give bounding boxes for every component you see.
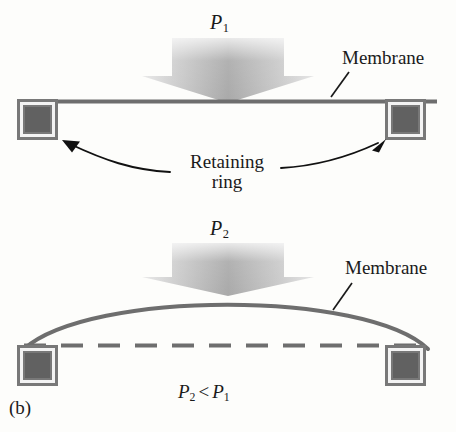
- pressure-symbol-p1: P: [210, 11, 222, 33]
- membrane-bowed-arc: [24, 305, 428, 349]
- inequality-operator: <: [199, 381, 210, 402]
- membrane-leader-line-bottom: [333, 283, 352, 310]
- retaining-ring-bottom-left: [17, 345, 58, 386]
- pressure-label-p2: P2: [210, 218, 229, 241]
- inequality-left-subscript: 2: [190, 391, 196, 404]
- pressure-arrow-p1-icon: [142, 38, 314, 103]
- membrane-leader-line-top: [331, 72, 349, 97]
- arrow-highlight: [142, 38, 314, 103]
- retaining-ring-label-line1: Retaining: [168, 152, 286, 172]
- retaining-ring-arrow-left: [62, 140, 170, 172]
- pressure-subscript-1: 1: [223, 21, 229, 35]
- inequality-right-subscript: 1: [224, 391, 230, 404]
- retaining-ring-arrow-right: [281, 139, 386, 168]
- retaining-ring-bottom-right: [385, 345, 426, 386]
- pressure-subscript-2: 2: [223, 227, 229, 241]
- pressure-membrane-figure: P1 Membrane Retaining ring P2 Membrane P…: [0, 0, 456, 432]
- arrow-highlight: [142, 243, 314, 296]
- panel-label: (b): [9, 398, 31, 418]
- retaining-ring-label: Retaining ring: [168, 152, 286, 192]
- ring-core: [25, 107, 50, 132]
- ring-core: [393, 353, 418, 378]
- retaining-ring-top-right: [385, 99, 426, 140]
- membrane-label-top: Membrane: [342, 48, 424, 68]
- ring-core: [25, 353, 50, 378]
- arrow-head: [62, 140, 80, 153]
- ring-core: [393, 107, 418, 132]
- pressure-label-p1: P1: [210, 12, 229, 35]
- retaining-ring-top-left: [17, 99, 58, 140]
- arrow-curve: [281, 143, 378, 168]
- arrow-curve: [70, 144, 170, 172]
- pressure-arrow-p2-icon: [142, 243, 314, 296]
- inequality-right-symbol: P: [212, 381, 224, 402]
- retaining-ring-label-line2: ring: [168, 172, 286, 192]
- membrane-label-bottom: Membrane: [345, 258, 427, 278]
- inequality-left-symbol: P: [178, 381, 190, 402]
- pressure-symbol-p2: P: [210, 217, 222, 239]
- pressure-inequality-label: P2<P1: [178, 382, 230, 405]
